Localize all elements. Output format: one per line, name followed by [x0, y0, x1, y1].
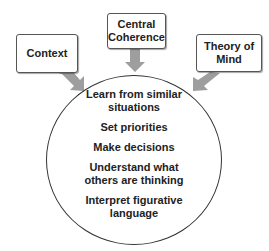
- outcome-item: Make decisions: [56, 141, 212, 154]
- theory-of-mind-box: Theory of Mind: [196, 34, 262, 72]
- central-coherence-label-line2: Coherence: [108, 31, 165, 44]
- outcome-line: others are thinking: [56, 174, 212, 187]
- context-label: Context: [27, 47, 68, 59]
- outcome-line: Make decisions: [56, 141, 212, 154]
- outcome-line: Interpret figurative: [56, 194, 212, 207]
- theory-of-mind-label-line2: Mind: [204, 53, 254, 66]
- arrow-central-coherence-to-circle: [125, 49, 145, 72]
- outcome-line: Set priorities: [56, 121, 212, 134]
- outcome-line: language: [56, 207, 212, 220]
- context-box: Context: [16, 34, 78, 73]
- outcome-item: Learn from similar situations: [56, 88, 212, 114]
- central-coherence-box: Central Coherence: [107, 13, 166, 49]
- outcome-line: Understand what: [56, 161, 212, 174]
- central-coherence-label-line1: Central: [108, 18, 165, 31]
- outcome-line: Learn from similar: [56, 88, 212, 101]
- outcome-item: Set priorities: [56, 121, 212, 134]
- theory-of-mind-label-line1: Theory of: [204, 40, 254, 53]
- outcome-item: Interpret figurative language: [56, 194, 212, 220]
- outcomes-list: Learn from similar situations Set priori…: [56, 88, 212, 227]
- outcome-item: Understand what others are thinking: [56, 161, 212, 187]
- outcome-line: situations: [56, 101, 212, 114]
